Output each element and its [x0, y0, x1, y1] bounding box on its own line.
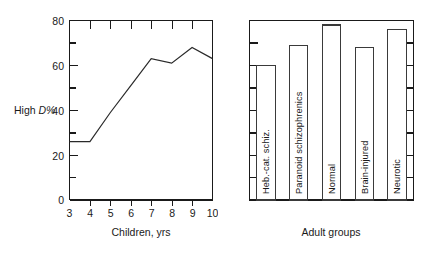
figure-root: 80 60 40 20 0 3 4 5 6 7 8 9 10 — [0, 0, 436, 254]
adult-groups-bar-panel: Heb.-cat. schiz.Paranoid schizophrenicsN… — [218, 0, 436, 254]
x-tick-label: 6 — [128, 207, 134, 219]
x-tick-label: 8 — [169, 207, 175, 219]
bar-category-label: Normal — [327, 164, 337, 194]
children-line-panel: 80 60 40 20 0 3 4 5 6 7 8 9 10 — [0, 0, 218, 254]
y-major-ticks-children — [70, 21, 78, 200]
children-line-svg: 80 60 40 20 0 3 4 5 6 7 8 9 10 — [0, 0, 218, 254]
bar-category-label: Paranoid schizophrenics — [294, 91, 304, 194]
y-axis-label-italic: D% — [39, 104, 56, 116]
plot-frame-children — [70, 20, 214, 200]
y-tick-label: 80 — [52, 15, 64, 27]
x-tick-label: 4 — [87, 207, 93, 219]
x-bottom-ticks-children — [90, 200, 193, 206]
line-series-high-d — [70, 47, 213, 141]
bar-category-label: Heb.-cat. schiz. — [261, 129, 271, 194]
adult-groups-bar-svg: Heb.-cat. schiz.Paranoid schizophrenicsN… — [218, 0, 436, 254]
x-tick-label: 3 — [67, 207, 73, 219]
x-tick-label: 10 — [207, 207, 218, 219]
x-tick-labels-children: 3 4 5 6 7 8 9 10 — [67, 207, 218, 219]
y-tick-label: 60 — [52, 60, 64, 72]
x-top-ticks-children — [90, 21, 193, 30]
x-tick-label: 9 — [190, 207, 196, 219]
y-tick-label: 0 — [58, 194, 64, 206]
y-tick-label: 20 — [52, 150, 64, 162]
x-axis-title-children: Children, yrs — [112, 226, 171, 238]
x-tick-label: 5 — [108, 207, 114, 219]
x-axis-title-adults: Adult groups — [302, 226, 361, 238]
bar-category-label: Neurotic — [392, 159, 402, 194]
y-axis-label-children: High D% — [14, 104, 55, 116]
x-tick-label: 7 — [149, 207, 155, 219]
y-axis-label-plain: High — [14, 104, 39, 116]
svg-text:High D%: High D% — [14, 104, 55, 116]
bar-category-label: Brain-injured — [360, 141, 370, 194]
